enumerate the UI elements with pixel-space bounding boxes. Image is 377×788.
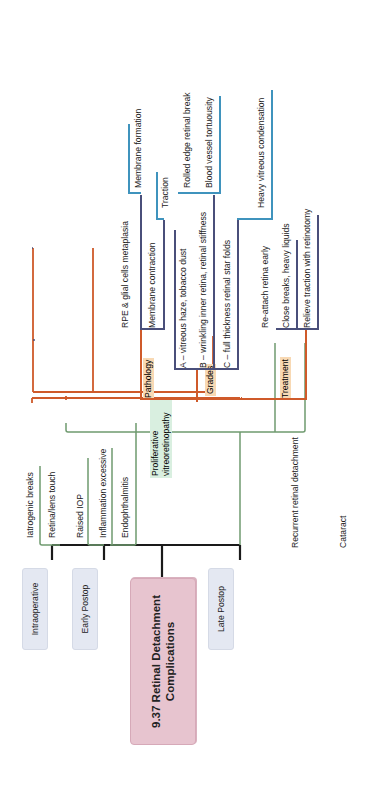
root-title-line1: 9.37 Retinal Detachment: [149, 595, 163, 728]
category-early-postop[interactable]: Early Postop: [72, 568, 98, 650]
leaf-grade-a[interactable]: A – vitreous haze, tobacco dust: [178, 249, 189, 368]
connector-line: [140, 195, 142, 330]
leaf-iatrogenic-breaks[interactable]: Iatrogenic breaks: [25, 472, 36, 538]
connector-line: [156, 172, 158, 220]
leaf-rpe-glial-metaplasia[interactable]: RPE & glial cells metaplasia: [120, 221, 131, 328]
category-label: Intraoperative: [30, 583, 40, 636]
category-intraoperative[interactable]: Intraoperative: [22, 568, 48, 650]
leaf-rolled-edge-retinal-break[interactable]: Rolled edge retinal break: [182, 92, 193, 188]
connector-line: [178, 192, 180, 194]
connector-line: [305, 330, 307, 400]
connector-line: [178, 192, 220, 194]
connector-line: [213, 195, 215, 370]
connector-line: [128, 192, 141, 194]
leaf-membrane-contraction[interactable]: Membrane contraction: [147, 242, 158, 328]
leaf-recurrent-retinal-detachment[interactable]: Recurrent retinal detachment: [290, 437, 301, 548]
connector-line: [271, 90, 273, 220]
connector-line: [163, 220, 165, 330]
leaf-cataract[interactable]: Cataract: [338, 516, 349, 548]
leaf-reattach-retina-early[interactable]: Re-attach retina early: [260, 246, 271, 328]
pvr-label-line1: Proliferative: [150, 402, 161, 476]
connector-line: [296, 240, 298, 330]
category-label: Early Postop: [80, 585, 90, 634]
connector-line: [237, 220, 239, 370]
connector-line: [196, 368, 198, 400]
connector-line: [128, 124, 130, 194]
leaf-relieve-traction-retinotomy[interactable]: Relieve traction with retinotomy: [302, 209, 313, 328]
leaf-blood-vessel-tortuousity[interactable]: Blood vessel tortuousity: [204, 97, 215, 188]
branch-pathology[interactable]: Pathology: [143, 358, 154, 400]
leaf-traction[interactable]: Traction: [160, 177, 171, 208]
leaf-retina-lens-touch[interactable]: Retina/lens touch: [47, 472, 58, 538]
category-late-postop[interactable]: Late Postop: [208, 568, 234, 650]
connector-line: [140, 328, 164, 330]
connector-line: [219, 96, 221, 194]
root-title-line2: Complications: [163, 622, 177, 701]
leaf-close-breaks-heavy-liquids[interactable]: Close breaks, heavy liquids: [281, 223, 292, 328]
connector-line: [174, 368, 238, 370]
pvr-node[interactable]: Proliferative vitreoretinopathy: [150, 400, 172, 478]
category-label: Late Postop: [216, 586, 226, 632]
leaf-heavy-vitreous-condensation[interactable]: Heavy vitreous condensation: [256, 98, 267, 208]
leaf-inflammation-excessive[interactable]: Inflammation excessive: [98, 449, 109, 538]
connector-line: [237, 218, 271, 220]
pvr-label-line2: vitreoretinopathy: [161, 402, 172, 476]
leaf-grade-c[interactable]: C – full thickness retinal star folds: [222, 240, 233, 368]
root-node[interactable]: 9.37 Retinal Detachment Complications: [130, 578, 196, 745]
mind-map: 9.37 Retinal Detachment Complications In…: [0, 0, 377, 788]
leaf-endophthalmitis[interactable]: Endophthalmitis: [120, 477, 131, 538]
leaf-raised-iop[interactable]: Raised IOP: [75, 494, 86, 538]
connector-line: [317, 215, 319, 330]
leaf-grade-b[interactable]: B – wrinkling inner retina, retinal stif…: [198, 212, 209, 368]
branch-treatment[interactable]: Treatment: [280, 357, 291, 400]
connector-line: [140, 330, 142, 400]
leaf-membrane-formation[interactable]: Membrane formation: [133, 109, 144, 188]
connector-line: [140, 398, 305, 400]
connector-line: [174, 230, 176, 370]
